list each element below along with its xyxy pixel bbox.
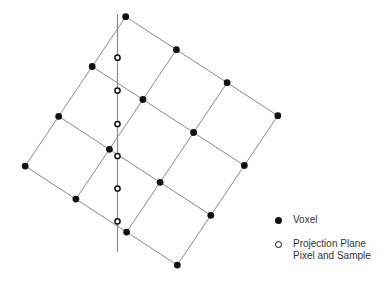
voxel-dot-icon bbox=[174, 262, 181, 269]
voxel-dot-icon bbox=[241, 162, 248, 169]
voxel-dot-icon bbox=[123, 229, 130, 236]
legend-sample-label-line2: Pixel and Sample bbox=[293, 250, 371, 262]
voxel-dot-icon bbox=[190, 129, 197, 136]
grid-line bbox=[126, 17, 278, 116]
legend-sample-label-line1: Projection Plane bbox=[293, 238, 371, 250]
sample-circle-icon bbox=[115, 121, 120, 126]
voxel-dot-icon bbox=[22, 163, 29, 170]
voxel-dot-icon bbox=[157, 179, 164, 186]
grid-line bbox=[59, 116, 211, 215]
grid-line bbox=[25, 17, 126, 166]
legend-item-voxel: Voxel bbox=[272, 214, 371, 228]
voxel-dot-icon bbox=[140, 96, 147, 103]
sample-circle-icon bbox=[115, 153, 120, 158]
grid-line bbox=[127, 83, 228, 232]
grid-line bbox=[25, 166, 177, 265]
grid-line bbox=[92, 67, 244, 166]
legend-voxel-label: Voxel bbox=[293, 214, 371, 226]
sample-circle-icon bbox=[115, 186, 120, 191]
filled-dot-icon bbox=[275, 217, 282, 224]
voxel-grid-lines bbox=[25, 17, 278, 265]
voxel-dot-icon bbox=[106, 146, 113, 153]
voxel-dot-icon bbox=[122, 13, 129, 20]
grid-line bbox=[76, 50, 176, 199]
voxel-dot-icon bbox=[173, 46, 180, 53]
voxel-dot-icon bbox=[224, 79, 231, 86]
sample-circle-icon bbox=[115, 219, 120, 224]
voxel-dot-icon bbox=[55, 113, 62, 120]
voxel-points bbox=[22, 13, 281, 268]
grid-line bbox=[177, 116, 277, 265]
voxel-dot-icon bbox=[89, 63, 96, 70]
sample-circle-icon bbox=[115, 88, 120, 93]
voxel-dot-icon bbox=[274, 112, 281, 119]
legend-item-sample: Projection Plane Pixel and Sample bbox=[272, 238, 371, 262]
open-circle-icon bbox=[275, 241, 282, 248]
sample-circle-icon bbox=[115, 55, 120, 60]
voxel-dot-icon bbox=[207, 212, 214, 219]
legend: Voxel Projection Plane Pixel and Sample bbox=[272, 214, 371, 262]
voxel-dot-icon bbox=[73, 196, 80, 203]
